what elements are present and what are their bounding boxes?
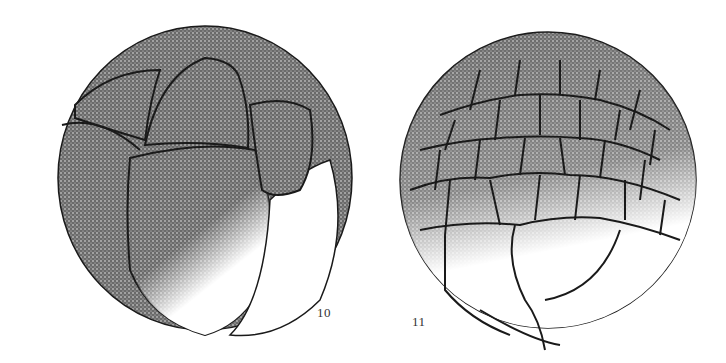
embryo-10 xyxy=(58,26,352,336)
panel-label-11: 11 xyxy=(412,314,426,330)
embryo-drawings xyxy=(0,0,726,363)
embryo-figure: 10 11 xyxy=(0,0,726,363)
embryo-11 xyxy=(400,32,696,350)
panel-label-10: 10 xyxy=(317,305,331,321)
